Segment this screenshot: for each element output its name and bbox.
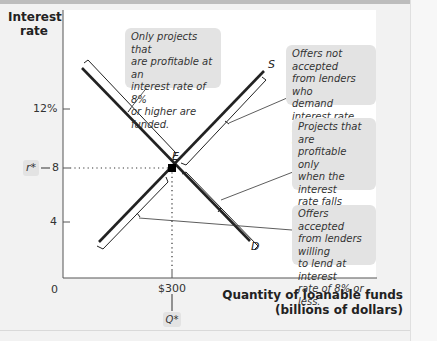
y-axis-label: Interest rate <box>8 10 60 38</box>
note-line: from lenders willing <box>298 233 370 258</box>
leader-not-funded <box>221 172 293 200</box>
demand-curve-label: D <box>251 240 259 253</box>
note-line: profitable only <box>298 146 370 171</box>
y-tick-label-4: 4 <box>50 215 57 228</box>
y-tick-label-8: 8 <box>52 161 59 174</box>
note-line: or higher are funded. <box>131 106 215 131</box>
note-accepted: Offers accepted from lenders willing to … <box>292 205 376 265</box>
note-line: rate of 8% or less. <box>298 283 370 308</box>
supply-curve-label: S <box>268 58 275 71</box>
note-line: Offers accepted <box>298 208 370 233</box>
x-tick-label-300: $300 <box>158 282 186 295</box>
bracket-supply-lower <box>97 177 168 249</box>
note-funded: Only projects that are profitable at an … <box>125 28 221 88</box>
note-line: are profitable at an <box>131 56 215 81</box>
bracket-nub <box>137 213 140 217</box>
equilibrium-label: E <box>172 150 179 163</box>
note-line: from lenders who <box>292 73 370 98</box>
q-star-marker: Q* <box>163 312 181 327</box>
leader-accepted <box>139 218 292 230</box>
note-line: Only projects that <box>131 31 215 56</box>
note-line: Projects that are <box>298 121 370 146</box>
note-line: when the interest <box>298 171 370 196</box>
origin-label: 0 <box>51 283 58 296</box>
y-tick-label-12: 12% <box>33 102 57 115</box>
y-axis-label-line1: Interest <box>8 10 60 24</box>
r-star-marker: r* <box>23 160 39 176</box>
note-line: interest rate of 8% <box>131 81 215 106</box>
note-not-accepted: Offers not accepted from lenders who dem… <box>286 45 376 105</box>
note-not-funded: Projects that are profitable only when t… <box>292 118 376 190</box>
equilibrium-point <box>168 164 176 172</box>
note-line: Offers not accepted <box>292 48 370 73</box>
note-line: to lend at interest <box>298 258 370 283</box>
y-axis-label-line2: rate <box>8 24 60 38</box>
